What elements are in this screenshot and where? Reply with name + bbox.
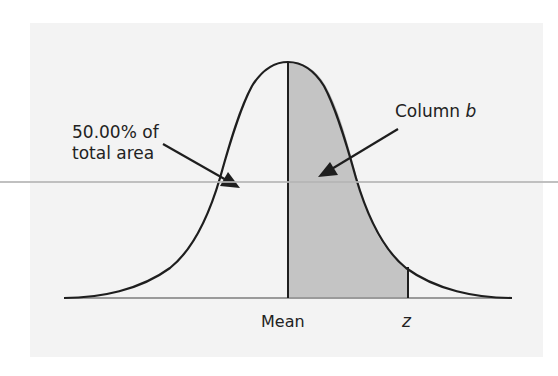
column-b-label-var: b [466, 101, 477, 121]
column-b-label: Column b [395, 101, 476, 122]
column-b-shaded-area [288, 62, 408, 298]
z-axis-label: z [402, 311, 411, 332]
stray-horizontal-line [0, 181, 558, 183]
left-label-line-2: total area [72, 143, 159, 164]
mean-axis-label: Mean [261, 311, 305, 332]
left-region-label: 50.00% of total area [72, 122, 159, 164]
column-b-label-prefix: Column [395, 101, 466, 121]
left-label-line-1: 50.00% of [72, 122, 159, 143]
